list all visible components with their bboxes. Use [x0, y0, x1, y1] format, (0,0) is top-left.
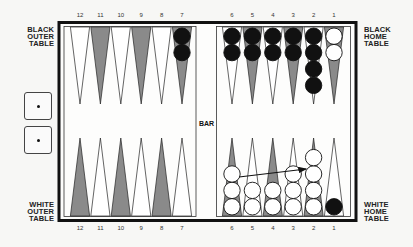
black-checker[interactable] — [305, 77, 321, 93]
white-checker[interactable] — [326, 44, 342, 60]
black-checker[interactable] — [326, 199, 342, 215]
white-checker[interactable] — [305, 166, 321, 182]
white-checker[interactable] — [265, 182, 281, 198]
black-checker[interactable] — [244, 28, 260, 44]
white-checker[interactable] — [265, 199, 281, 215]
white-checker[interactable] — [326, 28, 342, 44]
black-checker[interactable] — [174, 44, 190, 60]
black-checker[interactable] — [174, 28, 190, 44]
white-checker[interactable] — [305, 199, 321, 215]
black-checker[interactable] — [305, 44, 321, 60]
white-checker[interactable] — [224, 182, 240, 198]
white-checker[interactable] — [285, 182, 301, 198]
white-checker[interactable] — [285, 166, 301, 182]
black-checker[interactable] — [285, 28, 301, 44]
white-checker[interactable] — [224, 199, 240, 215]
white-checker[interactable] — [244, 199, 260, 215]
white-checker[interactable] — [224, 166, 240, 182]
black-checker[interactable] — [305, 28, 321, 44]
black-checker[interactable] — [265, 44, 281, 60]
black-checker[interactable] — [265, 28, 281, 44]
black-checker[interactable] — [305, 61, 321, 77]
bar-label: BAR — [199, 120, 214, 127]
black-checker[interactable] — [244, 44, 260, 60]
black-checker[interactable] — [224, 44, 240, 60]
black-checker[interactable] — [285, 44, 301, 60]
backgammon-board: BAR — [0, 0, 413, 247]
white-checker[interactable] — [244, 182, 260, 198]
white-checker[interactable] — [305, 149, 321, 165]
black-checker[interactable] — [224, 28, 240, 44]
white-checker[interactable] — [305, 182, 321, 198]
white-checker[interactable] — [285, 199, 301, 215]
